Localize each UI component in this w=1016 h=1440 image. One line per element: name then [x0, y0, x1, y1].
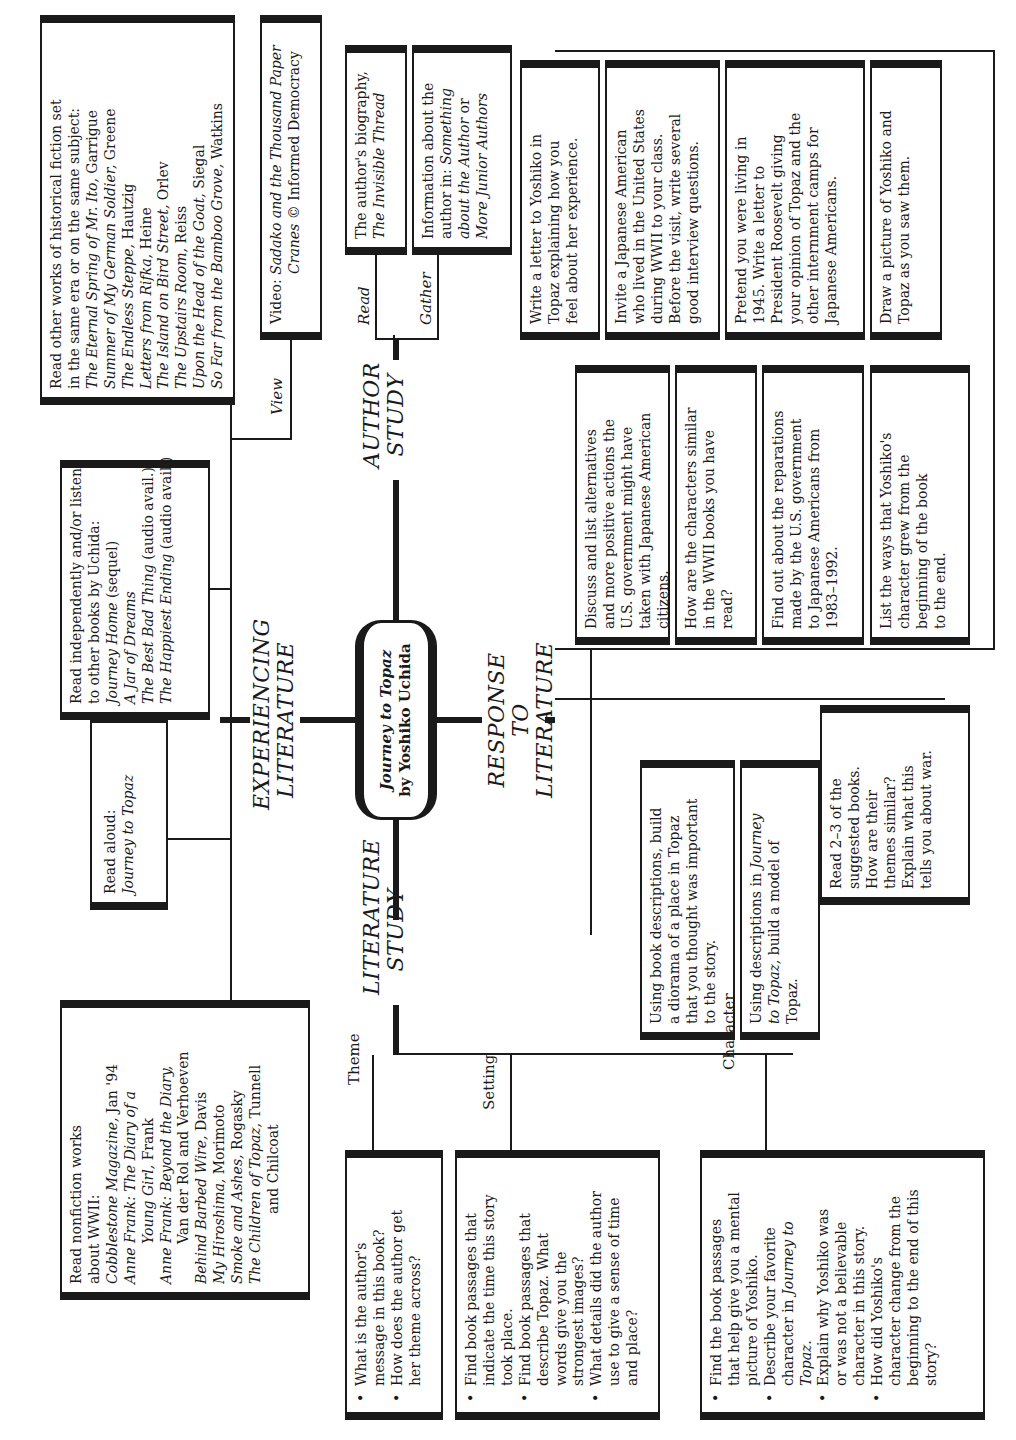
bullet-item: Describe your favoritecharacter in Journ…: [762, 1166, 816, 1386]
response-activity-invite-guest: Invite a Japanese American who lived in …: [605, 60, 720, 340]
book-entry: Cobblestone Magazine, Jan '94: [104, 1016, 122, 1284]
video-credit: © Informed Democracy: [286, 51, 302, 224]
book-entry: The Island on Bird Street, Orlev: [155, 31, 173, 389]
setting-label: Setting: [480, 1055, 498, 1110]
box-text: tells you about war.: [918, 721, 936, 889]
book-title: Anne Frank: Beyond the Diary,: [158, 1066, 174, 1284]
response-trunk: [555, 648, 995, 650]
response-activity-build-model: Using descriptions in Journey to Topaz, …: [740, 760, 820, 1040]
book-title: A Jar of Dreams: [122, 591, 138, 704]
book-title: Upon the Head of the Goat,: [191, 193, 207, 389]
spoke-literature-study-out: [393, 1005, 399, 1055]
book-author: Tunnell: [247, 1065, 263, 1123]
box-text: citizens.: [655, 381, 673, 629]
box-text: that you thought was important: [684, 776, 702, 1024]
spoke-response-out: [545, 717, 555, 723]
book-entry: Behind Barbed Wire, Davis: [193, 1016, 211, 1284]
response-activity-letter-to-yoshiko: Write a letter to Yoshiko in Topaz expla…: [520, 60, 600, 340]
book-entry: Smoke and Ashes, Rogasky: [229, 1016, 247, 1284]
book-entry: The Upstairs Room, Reiss: [173, 31, 191, 389]
box-text: and place?: [624, 1166, 642, 1386]
box-text: picture of Yoshiko.: [744, 1166, 762, 1386]
historical-fiction-box: Read other works of historical fiction s…: [40, 15, 235, 405]
bullet-item: Find book passages thatdescribe Topaz. W…: [517, 1166, 589, 1386]
view-label: View: [268, 378, 286, 415]
author-information-box: Information about the author in: Somethi…: [412, 45, 512, 255]
box-text: beginning to the end of this: [905, 1166, 923, 1386]
book-entry: The Happiest Ending (audio avail.): [158, 476, 176, 704]
character-bullets: Find the book passagesthat help give you…: [708, 1166, 941, 1404]
book-title: Cobblestone Magazine,: [104, 1118, 120, 1284]
box-text: Pretend you were living in: [733, 76, 751, 324]
spoke-down: [437, 717, 482, 723]
box-text: Before the visit, write several: [667, 76, 685, 324]
character-box: Find the book passagesthat help give you…: [700, 1150, 985, 1420]
box-text: character change from the: [887, 1166, 905, 1386]
box-text: character in Journey to: [780, 1166, 798, 1386]
box-text: story?: [923, 1166, 941, 1386]
video-line-2: Cranes © Informed Democracy: [286, 31, 304, 324]
box-text: Read other works of historical fiction s…: [48, 31, 66, 389]
response-right-rail: [555, 50, 995, 52]
box-text: Find the book passages: [708, 1166, 726, 1386]
box-text: her theme across?: [407, 1166, 425, 1386]
box-text: Invite a Japanese American: [613, 76, 631, 324]
book-title: Journey to: [780, 1221, 796, 1294]
box-text: to Topaz, build a model of: [766, 776, 784, 1024]
web-diagram-page: Journey to Topaz by Yoshiko Uchida EXPER…: [0, 0, 1016, 1440]
box-text: good interview questions.: [685, 76, 703, 324]
book-title: The Happiest Ending: [158, 554, 174, 704]
box-text: or was not a believable: [833, 1166, 851, 1386]
read-connector: [375, 255, 377, 340]
box-text: Using descriptions in Journey: [748, 776, 766, 1024]
box-text: to other books by Uchida:: [86, 476, 104, 704]
box-text: made by the U.S. government: [788, 381, 806, 629]
book-author: Garrigue: [84, 110, 100, 178]
book-title: Letters from Rifka,: [138, 254, 154, 389]
box-text: Topaz explaining how you: [546, 76, 564, 324]
book-title: Behind Barbed Wire,: [193, 1135, 209, 1284]
video-title: Sadako and the Thousand Paper: [268, 45, 284, 275]
book-author: Jan '94: [104, 1064, 120, 1118]
box-text: How did Yoshiko's: [869, 1166, 887, 1386]
box-text: Read independently and/or listen: [68, 476, 86, 704]
setting-bullets: Find book passages thatindicate the time…: [463, 1166, 642, 1404]
box-text: Explain why Yoshiko was: [815, 1166, 833, 1386]
bullet-item: How did Yoshiko'scharacter change from t…: [869, 1166, 941, 1386]
book-title: Topaz.: [798, 1166, 816, 1386]
setting-connector: [510, 1055, 512, 1150]
box-text: other internment camps for: [805, 76, 823, 324]
box-text: How does the author get: [389, 1166, 407, 1386]
branch-experiencing-literature: EXPERIENCING LITERATURE: [250, 630, 298, 810]
video-box: Video: Sadako and the Thousand Paper Cra…: [260, 15, 322, 340]
response-activity-characters-similar: How are the characters similar in the WW…: [675, 365, 757, 645]
box-text: Topaz as you saw them.: [896, 76, 914, 324]
book-entry: Letters from Rifka, Heine: [138, 31, 156, 389]
response-activity-roosevelt-letter: Pretend you were living in 1945. Write a…: [725, 60, 865, 340]
box-text: and more positive actions the: [601, 381, 619, 629]
book-author: Orlev: [155, 161, 171, 204]
response-activity-list-growth: List the ways that Yoshiko's character g…: [870, 365, 970, 645]
center-node-book-title: Journey to Topaz by Yoshiko Uchida: [355, 620, 437, 820]
book-entry: Van der Rol and Verhoeven: [175, 1016, 193, 1284]
book-entry: The Eternal Spring of Mr. Ito, Garrigue: [84, 31, 102, 389]
box-text: use to give a sense of time: [606, 1166, 624, 1386]
book-author: Rogasky: [229, 1090, 245, 1154]
view-connector: [290, 340, 292, 440]
box-text: to the story.: [702, 776, 720, 1024]
book-title: about the Author: [456, 118, 472, 239]
video-title: Cranes: [286, 224, 302, 274]
theme-box: What is the author'smessage in this book…: [345, 1150, 443, 1420]
book-entry: The Children of Topaz, Tunnell: [247, 1016, 265, 1284]
box-text: about WWII:: [86, 1016, 104, 1284]
box-text: List the ways that Yoshiko's: [878, 381, 896, 629]
book-author: and Chilcoat: [265, 1124, 281, 1214]
box-text: Draw a picture of Yoshiko and: [878, 76, 896, 324]
book-author: Heine: [138, 207, 154, 254]
author-biography-box: The author's biography, The Invisible Th…: [345, 45, 407, 255]
book-title: The Endless Steppe,: [120, 244, 136, 389]
box-text: during WWII to your class.: [649, 76, 667, 324]
box-text: describe Topaz. What: [535, 1166, 553, 1386]
box-text: that help give you a mental: [726, 1166, 744, 1386]
box-text: President Roosevelt giving: [769, 76, 787, 324]
